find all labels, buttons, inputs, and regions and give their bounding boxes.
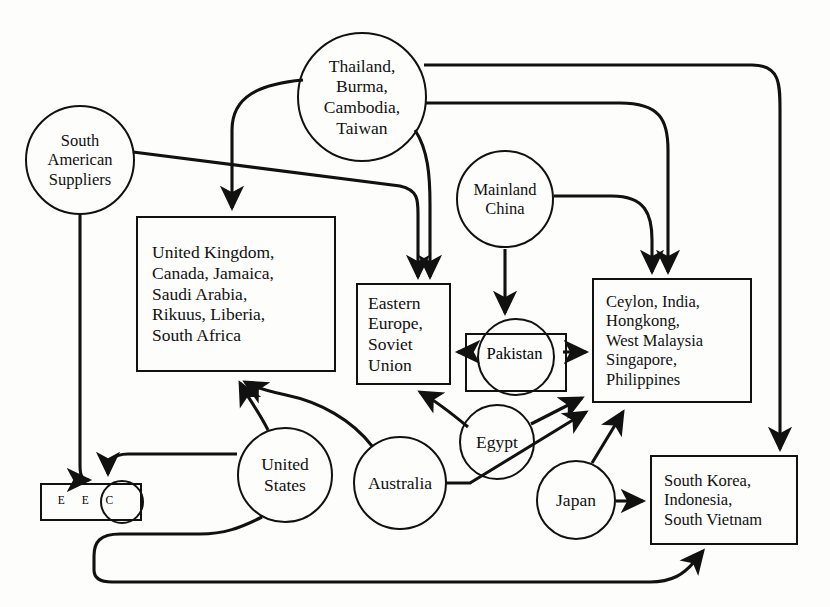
node-ceylon-group-label: Ceylon, India, Hongkong, West Malaysia S… (606, 292, 750, 389)
diagram-canvas: Thailand, Burma, Cambodia, Taiwan South … (0, 0, 830, 607)
edge-egypt-to-eastern-europe (420, 392, 468, 427)
node-thailand[interactable]: Thailand, Burma, Cambodia, Taiwan (297, 32, 427, 162)
node-thailand-label: Thailand, Burma, Cambodia, Taiwan (324, 56, 400, 139)
node-mainland-china[interactable]: Mainland China (456, 150, 554, 248)
node-australia-label: Australia (368, 473, 432, 494)
node-uk-group[interactable]: United Kingdom, Canada, Jamaica, Saudi A… (136, 216, 336, 372)
node-egypt[interactable]: Egypt (459, 404, 535, 480)
node-eastern-europe-label: Eastern Europe, Soviet Union (368, 293, 449, 376)
node-south-american-suppliers-label: South American Suppliers (47, 131, 112, 189)
node-pakistan[interactable]: Pakistan (462, 315, 567, 393)
node-uk-group-label: United Kingdom, Canada, Jamaica, Saudi A… (152, 242, 334, 345)
edge-china-to-ceylon (554, 196, 652, 272)
node-japan[interactable]: Japan (536, 460, 616, 540)
edge-thailand-to-uk (232, 80, 303, 208)
node-egypt-label: Egypt (476, 432, 518, 453)
node-mainland-china-label: Mainland China (473, 180, 536, 219)
node-eec[interactable]: E E C (38, 478, 146, 524)
node-australia[interactable]: Australia (353, 436, 447, 530)
edge-japan-to-ceylon (592, 412, 623, 463)
node-pakistan-label-wrap: Pakistan (462, 315, 567, 393)
node-south-korea-group[interactable]: South Korea, Indonesia, South Vietnam (650, 455, 798, 545)
node-pakistan-label: Pakistan (487, 344, 543, 364)
node-japan-label: Japan (556, 490, 596, 511)
node-united-states[interactable]: United States (237, 427, 333, 523)
edge-sas-to-eec (80, 215, 89, 480)
node-eec-label-wrap: E E C (40, 483, 138, 517)
node-united-states-label: United States (261, 454, 309, 495)
node-eec-label: E E C (58, 494, 120, 506)
node-ceylon-group[interactable]: Ceylon, India, Hongkong, West Malaysia S… (592, 278, 752, 403)
node-south-korea-group-label: South Korea, Indonesia, South Vietnam (664, 471, 796, 529)
node-eastern-europe[interactable]: Eastern Europe, Soviet Union (356, 283, 451, 385)
node-south-american-suppliers[interactable]: South American Suppliers (25, 105, 135, 215)
edge-us-to-eec (108, 454, 237, 474)
